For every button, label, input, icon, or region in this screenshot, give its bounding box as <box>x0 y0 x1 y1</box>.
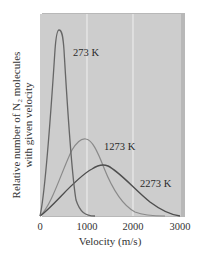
label-2273k: 2273 K <box>140 178 172 189</box>
y-axis-label-line2: with given velocity <box>22 82 34 167</box>
x-tick-1000: 1000 <box>77 221 98 232</box>
x-tick-3000: 3000 <box>170 221 191 232</box>
x-tick-0: 0 <box>37 221 42 232</box>
label-273k: 273 K <box>73 47 99 58</box>
label-1273k: 1273 K <box>104 141 136 152</box>
x-tick-2000: 2000 <box>123 221 144 232</box>
y-axis-label-line1: Relative number of N₂ molecules <box>10 52 22 199</box>
x-axis-label: Velocity (m/s) <box>79 235 142 248</box>
maxwell-distribution-chart: 273 K 1273 K 2273 K 0 1000 2000 3000 Vel… <box>0 0 209 257</box>
